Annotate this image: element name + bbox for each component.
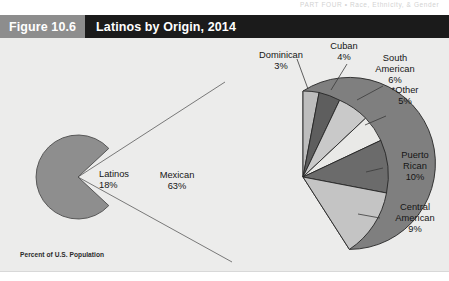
panel-bottom-rule	[0, 271, 449, 272]
figure-header-bar: Figure 10.6 Latinos by Origin, 2014	[0, 15, 449, 38]
label-puerto-rican-line1: Puerto	[391, 150, 439, 161]
label-dominican: Dominican 3%	[250, 50, 312, 72]
label-puerto-rican: Puerto Rican 10%	[391, 150, 439, 182]
figure-number-badge: Figure 10.6	[0, 15, 85, 38]
label-puerto-rican-line2: Rican	[391, 161, 439, 172]
label-central-american-pct: 9%	[388, 224, 442, 235]
label-dominican-pct: 3%	[250, 61, 312, 72]
label-cuban-name: Cuban	[322, 41, 366, 52]
label-latinos: Latinos 18%	[99, 169, 157, 191]
label-latinos-pct: 18%	[99, 180, 157, 191]
label-latinos-name: Latinos	[99, 169, 157, 180]
label-central-american-line2: American	[388, 213, 442, 224]
label-other: *Other 5%	[383, 85, 427, 107]
chart-footnote: Percent of U.S. Population	[20, 251, 104, 258]
label-cuban: Cuban 4%	[322, 41, 366, 63]
chart-panel: Dominican 3% Cuban 4% South American 6% …	[0, 38, 449, 271]
running-head-text: PART FOUR • Race, Ethnicity, & Gender	[300, 1, 439, 8]
label-south-american-line1: South	[366, 53, 424, 64]
label-puerto-rican-pct: 10%	[391, 172, 439, 183]
small-pie-latino-share	[36, 135, 109, 219]
label-other-pct: 5%	[383, 96, 427, 107]
label-central-american: Central American 9%	[388, 202, 442, 234]
label-central-american-line1: Central	[388, 202, 442, 213]
label-other-name: *Other	[383, 85, 427, 96]
label-cuban-pct: 4%	[322, 52, 366, 63]
label-dominican-name: Dominican	[250, 50, 312, 61]
label-south-american: South American 6%	[366, 53, 424, 85]
figure-title: Latinos by Origin, 2014	[85, 15, 236, 38]
label-south-american-line2: American	[366, 64, 424, 75]
figure-root: PART FOUR • Race, Ethnicity, & Gender Fi…	[0, 0, 449, 281]
label-south-american-pct: 6%	[366, 75, 424, 86]
